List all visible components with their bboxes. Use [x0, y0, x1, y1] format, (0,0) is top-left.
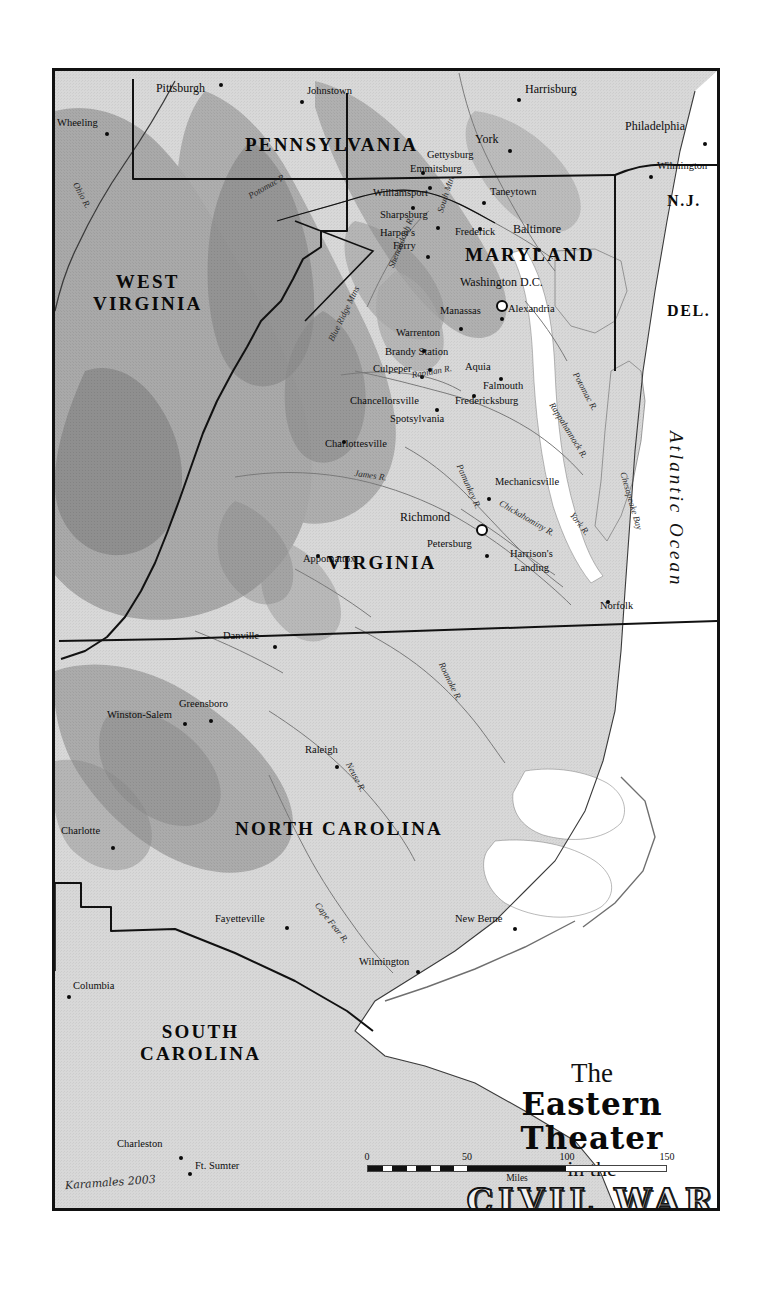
city-dot-marker	[513, 927, 517, 931]
scale-tick-label: 0	[365, 1151, 370, 1162]
scale-tick-label: 50	[462, 1151, 472, 1162]
city-label: Frederick	[455, 227, 495, 238]
state-label: N.J.	[667, 193, 701, 209]
city-label: Culpeper	[373, 364, 412, 375]
city-dot-marker	[428, 186, 432, 190]
city-label: Winston-Salem	[107, 710, 172, 721]
city-dot-marker	[508, 149, 512, 153]
city-dot-marker	[703, 142, 707, 146]
city-label: Mechanicsville	[495, 477, 559, 488]
city-label: Pittsburgh	[156, 82, 205, 94]
city-dot-marker	[649, 175, 653, 179]
city-dot-marker	[426, 255, 430, 259]
city-label: Columbia	[73, 981, 114, 992]
city-label: Spotsylvania	[390, 414, 444, 425]
state-label: MARYLAND	[465, 245, 595, 264]
map-title-block: The Eastern Theater in the CIVIL WAR	[447, 1059, 720, 1211]
state-label: DEL.	[667, 303, 710, 319]
city-label: New Berne	[455, 914, 503, 925]
title-line-the: The	[447, 1059, 720, 1087]
city-label: Raleigh	[305, 745, 338, 756]
city-dot-marker	[111, 846, 115, 850]
city-label: Harrisburg	[525, 83, 577, 95]
city-dot-marker	[105, 132, 109, 136]
city-dot-marker	[316, 554, 320, 558]
city-label: Richmond	[400, 511, 450, 523]
city-dot-marker	[500, 317, 504, 321]
atlantic-ocean-label: Atlantic Ocean	[667, 431, 686, 588]
city-dot-marker	[459, 327, 463, 331]
city-label: York	[475, 133, 498, 145]
city-dot-marker	[487, 497, 491, 501]
city-label: Johnstown	[307, 86, 352, 97]
city-label: Alexandria	[508, 304, 555, 315]
city-dot-marker	[300, 100, 304, 104]
city-dot-marker	[485, 554, 489, 558]
city-label: Petersburg	[427, 539, 472, 550]
city-label: Aquia	[465, 362, 491, 373]
title-line-civil-war: CIVIL WAR	[447, 1181, 720, 1211]
city-dot-marker	[179, 1156, 183, 1160]
city-label: Washington D.C.	[460, 276, 543, 288]
state-label: SOUTH CAROLINA	[140, 1021, 261, 1065]
city-label: Warrenton	[396, 328, 440, 339]
state-label: WEST VIRGINIA	[93, 271, 202, 315]
city-label: Greensboro	[179, 699, 228, 710]
city-label: Fayetteville	[215, 914, 265, 925]
city-label: Charleston	[117, 1139, 163, 1150]
city-dot-marker	[285, 926, 289, 930]
city-label: Ft. Sumter	[195, 1161, 239, 1172]
city-label: Wilmington	[657, 161, 707, 172]
city-dot-marker	[478, 227, 482, 231]
scale-tick-labels: 050100150	[367, 1151, 667, 1165]
city-dot-marker	[436, 226, 440, 230]
city-dot-marker	[183, 722, 187, 726]
city-dot-marker	[517, 98, 521, 102]
city-dot-marker	[273, 645, 277, 649]
city-label: Fredericksburg	[455, 396, 518, 407]
city-label: Gettysburg	[427, 150, 473, 161]
scale-caption: Miles	[367, 1173, 667, 1183]
city-label: Charlotte	[61, 826, 100, 837]
city-dot-marker	[209, 719, 213, 723]
city-dot-marker	[606, 600, 610, 604]
city-label: Brandy Station	[385, 347, 448, 358]
city-label: Falmouth	[483, 381, 523, 392]
city-dot-marker	[416, 970, 420, 974]
scale-tick-label: 100	[560, 1151, 575, 1162]
city-label: Baltimore	[513, 223, 561, 235]
city-label: Danville	[223, 631, 259, 642]
scale-bar-block: 050100150 Miles	[367, 1151, 667, 1183]
city-dot-marker	[67, 995, 71, 999]
map-frame: PittsburghJohnstownHarrisburgPhiladelphi…	[52, 68, 720, 1211]
city-label: Manassas	[440, 306, 481, 317]
city-label: Williamsport	[373, 188, 428, 199]
city-label: Charlottesville	[325, 439, 387, 450]
city-label: Harrison's	[510, 549, 553, 560]
city-label: Emmitsburg	[410, 164, 462, 175]
state-label: PENNSYLVANIA	[245, 135, 418, 154]
state-label: NORTH CAROLINA	[235, 819, 443, 838]
city-dot-marker	[219, 83, 223, 87]
city-label: Taneytown	[490, 187, 537, 198]
state-label: VIRGINIA	[327, 553, 436, 572]
title-line-main: Eastern Theater	[447, 1087, 720, 1155]
map-canvas: PittsburghJohnstownHarrisburgPhiladelphi…	[55, 71, 717, 1208]
city-dot-marker	[188, 1172, 192, 1176]
city-dot-marker	[335, 765, 339, 769]
city-label: Wheeling	[57, 118, 98, 129]
capital-marker	[476, 524, 488, 536]
city-label: Norfolk	[600, 601, 633, 612]
city-label: Landing	[514, 563, 549, 574]
capital-marker	[496, 300, 508, 312]
scale-bar-graphic	[367, 1165, 667, 1172]
city-dot-marker	[482, 201, 486, 205]
city-dot-marker	[342, 440, 346, 444]
scale-tick-label: 150	[660, 1151, 675, 1162]
city-dot-marker	[435, 408, 439, 412]
city-label: Philadelphia	[625, 120, 685, 132]
city-label: Wilmington	[359, 957, 409, 968]
city-label: Chancellorsville	[350, 396, 419, 407]
